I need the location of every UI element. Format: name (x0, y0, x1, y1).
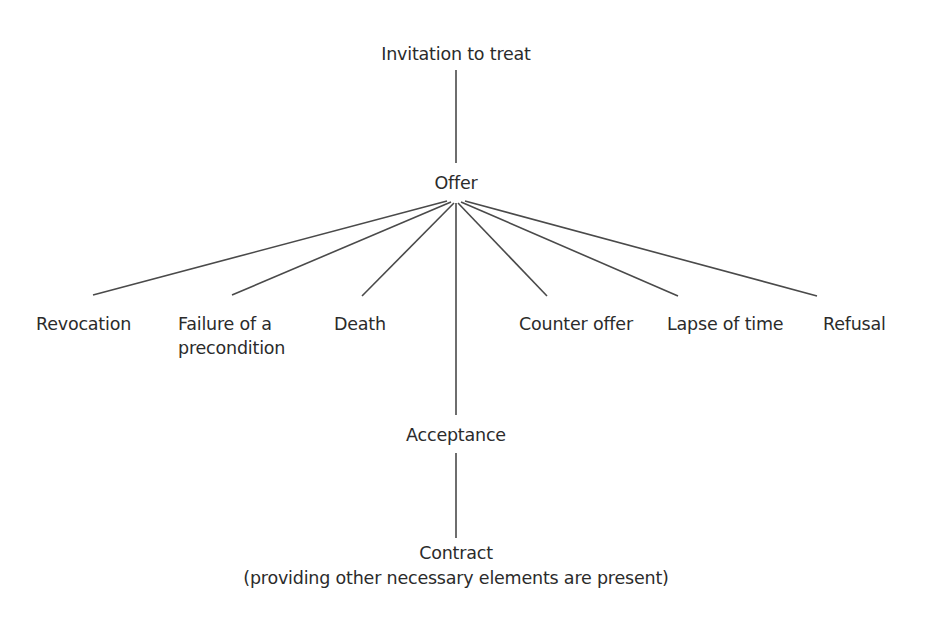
node-refusal: Refusal (823, 312, 886, 336)
node-contract: Contract (419, 541, 493, 565)
edge-offer-death (362, 203, 454, 296)
offer-acceptance-diagram: Invitation to treat Offer Revocation Fai… (0, 0, 930, 624)
node-failure-line-2: precondition (178, 336, 285, 360)
node-invitation-to-treat: Invitation to treat (381, 42, 531, 66)
edge-offer-counter-offer (458, 203, 547, 296)
node-counter-offer: Counter offer (519, 312, 633, 336)
edge-offer-failure (232, 202, 451, 295)
node-failure-line-1: Failure of a (178, 312, 285, 336)
diagram-edges (0, 0, 930, 624)
edge-offer-refusal (465, 201, 817, 296)
node-contract-note: (providing other necessary elements are … (243, 566, 668, 590)
node-lapse-of-time: Lapse of time (667, 312, 783, 336)
node-revocation: Revocation (36, 312, 131, 336)
edge-offer-revocation (93, 201, 447, 295)
node-death: Death (334, 312, 386, 336)
node-acceptance: Acceptance (406, 423, 506, 447)
node-offer: Offer (434, 171, 477, 195)
node-failure-of-precondition: Failure of a precondition (178, 312, 285, 360)
